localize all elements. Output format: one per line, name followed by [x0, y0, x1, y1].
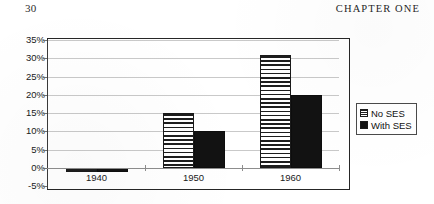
legend-swatch-solid-icon — [360, 121, 368, 129]
gridline — [48, 77, 339, 78]
x-axis-tick-mark — [242, 165, 243, 171]
y-axis-tick-label: -5% — [3, 180, 45, 191]
bar-with-ses-1960 — [291, 95, 322, 168]
gridline — [48, 58, 339, 59]
y-axis-tick-label: 20% — [3, 89, 45, 100]
legend-item-with-ses: With SES — [360, 119, 412, 131]
x-axis-tick-mark — [339, 165, 340, 171]
x-axis-tick-label: 1950 — [164, 172, 224, 183]
y-axis-tick-label: 10% — [3, 125, 45, 136]
page-header: 30 CHAPTER ONE — [0, 0, 434, 22]
bar-no-ses-1960 — [260, 55, 291, 168]
y-axis-tick-label: 25% — [3, 71, 45, 82]
bar-with-ses-1950 — [194, 131, 225, 168]
y-axis-tick-label: 35% — [3, 34, 45, 45]
y-axis-line — [47, 40, 48, 189]
x-axis-tick-mark — [145, 165, 146, 171]
legend-label-no-ses: No SES — [371, 108, 405, 119]
chapter-running-head: CHAPTER ONE — [336, 3, 420, 14]
x-axis-zero-line — [47, 168, 339, 169]
y-axis-tick-label: 5% — [3, 144, 45, 155]
legend-swatch-striped-icon — [360, 109, 368, 117]
legend-label-with-ses: With SES — [371, 120, 412, 131]
legend-item-no-ses: No SES — [360, 107, 412, 119]
y-axis: 35%30%25%20%15%10%5%0%-5% — [0, 0, 45, 204]
y-axis-tick-label: 15% — [3, 107, 45, 118]
x-axis-tick-label: 1940 — [67, 172, 127, 183]
y-axis-tick-label: 30% — [3, 52, 45, 63]
bar-no-ses-1950 — [163, 113, 194, 168]
gridline — [48, 40, 339, 41]
x-axis-tick-label: 1960 — [261, 172, 321, 183]
chart-legend: No SES With SES — [356, 103, 417, 135]
y-axis-tick-label: 0% — [3, 162, 45, 173]
